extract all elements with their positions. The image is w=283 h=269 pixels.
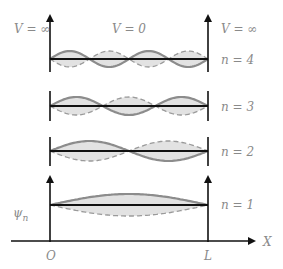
- wavefunction-curves: [50, 51, 208, 216]
- psi-label: ψn: [13, 206, 28, 223]
- level-label-n4: n = 4: [221, 53, 254, 67]
- well-end-label: L: [203, 249, 212, 263]
- infinite-well-diagram: V = ∞ V = 0 V = ∞ n = 4 n = 3 n = 2 n = …: [0, 0, 283, 269]
- level-label-n2: n = 2: [221, 145, 254, 159]
- left-potential-label: V = ∞: [14, 22, 50, 36]
- x-axis-label: X: [262, 235, 272, 249]
- level-label-n3: n = 3: [221, 100, 254, 114]
- psi-subscript: n: [22, 213, 28, 223]
- origin-label: O: [46, 249, 56, 263]
- center-potential-label: V = 0: [112, 22, 146, 36]
- right-potential-label: V = ∞: [221, 22, 257, 36]
- level-label-n1: n = 1: [221, 198, 254, 212]
